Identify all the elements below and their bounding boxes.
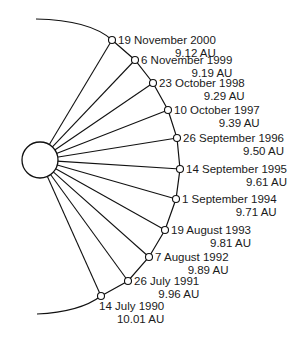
observation-distance: 9.50 AU (243, 145, 284, 157)
orbit-diagram: 19 November 20009.12 AU6 November 19999.… (0, 0, 301, 337)
observation-date: 10 October 1997 (174, 104, 260, 116)
observation-date: 1 September 1994 (182, 193, 277, 205)
observation-date: 23 October 1998 (159, 77, 245, 89)
observation-distance: 9.71 AU (236, 206, 277, 218)
sight-line (57, 161, 180, 169)
sight-line (56, 165, 176, 199)
observation-distance: 9.39 AU (219, 117, 260, 129)
observation-point (125, 278, 132, 285)
observation-point (174, 135, 181, 142)
sight-line (57, 138, 177, 157)
reference-arc-lower (37, 296, 101, 314)
observation-point (109, 37, 116, 44)
observation-point (146, 254, 153, 261)
observation-distance: 9.81 AU (210, 237, 251, 249)
observation-point (98, 293, 105, 300)
reference-arc (36, 19, 112, 40)
observation-point (162, 227, 169, 234)
sight-line (56, 110, 168, 154)
sight-line (55, 168, 165, 230)
observation-distance: 9.96 AU (158, 288, 199, 300)
observation-point (150, 80, 157, 87)
sight-line (47, 176, 101, 296)
observation-date: 26 July 1991 (134, 275, 199, 287)
observation-date: 14 July 1990 (99, 300, 164, 312)
observation-point (132, 57, 139, 64)
observation-point (165, 107, 172, 114)
observation-distance: 9.61 AU (246, 176, 287, 188)
observation-date: 19 November 2000 (118, 34, 216, 46)
observation-point (177, 166, 184, 173)
observation-distance: 10.01 AU (117, 313, 164, 325)
observation-distance: 9.29 AU (204, 90, 245, 102)
observation-point (173, 196, 180, 203)
observation-date: 26 September 1996 (183, 132, 284, 144)
sun (22, 142, 58, 178)
observation-date: 6 November 1999 (141, 54, 232, 66)
sight-line (49, 40, 112, 145)
observation-date: 7 August 1992 (155, 251, 229, 263)
observation-date: 19 August 1993 (171, 224, 251, 236)
observation-date: 14 September 1995 (186, 163, 287, 175)
